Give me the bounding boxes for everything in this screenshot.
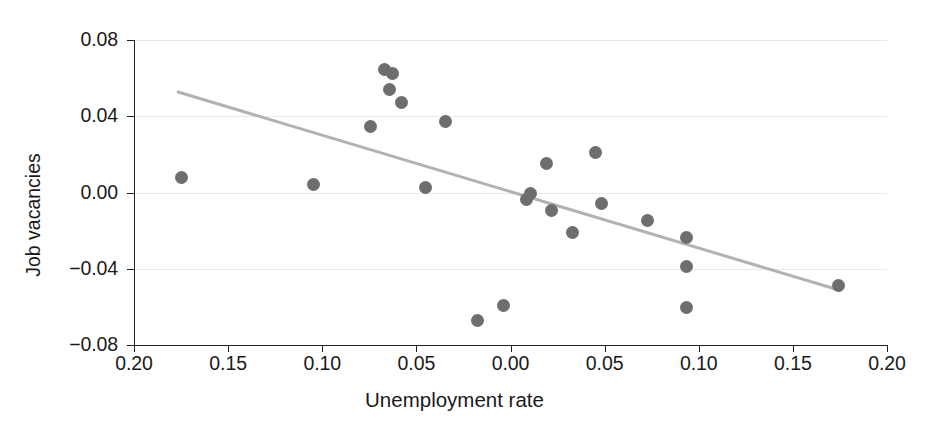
x-tick-4 [511,345,512,352]
gridline-y-3 [134,269,887,270]
x-tick-5 [605,345,606,352]
y-tick-1 [127,116,134,117]
data-point [545,204,558,217]
gridline-y-0 [134,40,887,41]
trend-line [178,92,840,290]
x-axis-title-text: Unemployment rate [365,388,544,411]
y-tick-label-3: −0.04 [0,257,118,280]
data-point [378,63,391,76]
data-point [540,157,553,170]
data-point [680,231,693,244]
data-point [175,171,188,184]
data-point [307,178,320,191]
x-tick-label-1: 0.15 [183,352,273,375]
data-point [386,67,399,80]
x-tick-label-7: 0.15 [748,352,838,375]
data-point [520,193,533,206]
y-tick-label-0: 0.08 [0,28,118,51]
y-tick-label-2: 0.00 [0,181,118,204]
data-point [566,226,579,239]
y-tick-2 [127,193,134,194]
x-tick-label-6: 0.10 [654,352,744,375]
x-tick-label-8: 0.20 [842,352,932,375]
y-tick-3 [127,269,134,270]
x-tick-3 [416,345,417,352]
x-tick-0 [134,345,135,352]
data-point [395,96,408,109]
y-axis-line [134,40,135,346]
y-tick-label-1: 0.04 [0,104,118,127]
data-point [471,314,484,327]
y-axis-title: Job vacancies [22,0,48,430]
x-tick-label-2: 0.10 [277,352,367,375]
x-axis-title: Unemployment rate [0,388,943,412]
x-tick-label-3: 0.05 [371,352,461,375]
data-point [589,146,602,159]
x-tick-7 [793,345,794,352]
data-point [595,197,608,210]
x-tick-1 [228,345,229,352]
gridline-y-1 [134,116,887,117]
x-tick-label-0: 0.20 [89,352,179,375]
x-tick-label-4: 0.00 [466,352,556,375]
x-tick-2 [322,345,323,352]
x-tick-6 [699,345,700,352]
scatter-chart-figure: 0.080.040.00−0.04−0.08 0.200.150.100.050… [0,0,943,430]
data-point [497,299,510,312]
gridline-y-2 [134,193,887,194]
data-point [680,260,693,273]
data-point [364,120,377,133]
data-point [383,83,396,96]
x-tick-8 [887,345,888,352]
y-tick-4 [127,345,134,346]
y-tick-0 [127,40,134,41]
data-point [832,279,845,292]
data-point [680,301,693,314]
data-point [641,214,654,227]
x-tick-label-5: 0.05 [560,352,650,375]
